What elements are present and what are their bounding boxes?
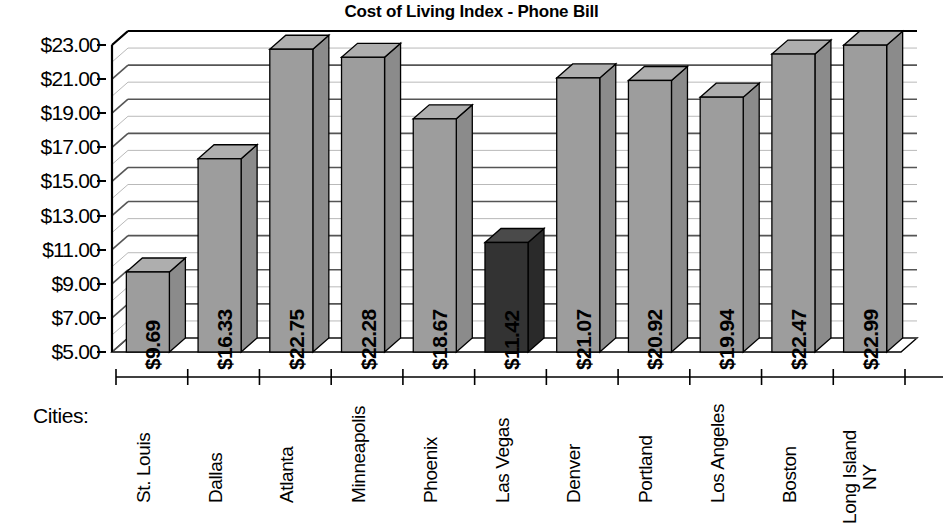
wall-edge-tick: [112, 167, 128, 181]
bar-value-label: $20.92: [643, 309, 667, 370]
y-axis-top-connector: [112, 31, 128, 45]
x-axis-category-label: Portland: [636, 435, 655, 503]
wall-edge-tick: [112, 202, 128, 216]
wall-edge-tick: [112, 321, 128, 335]
bar-value-label: $9.69: [141, 320, 165, 370]
bar-side-face: [743, 83, 759, 352]
bar-value-label: $11.42: [500, 311, 524, 370]
bar-side-face: [815, 40, 831, 352]
bar-side-face: [456, 105, 472, 352]
bar-side-face: [887, 31, 903, 352]
x-axis-category-label: Phoenix: [421, 437, 440, 503]
x-axis-category-label: Minneapolis: [349, 406, 368, 503]
bar-side-face: [241, 145, 257, 352]
bar-front-face[interactable]: [270, 49, 313, 352]
x-axis-category-label: Long IslandNY: [840, 430, 880, 524]
wall-edge-tick: [112, 185, 128, 199]
x-axis-category-label: Dallas: [206, 453, 225, 503]
bar-side-face: [313, 35, 329, 352]
x-axis-caption: Cities:: [33, 404, 89, 428]
bar-value-label: $22.28: [357, 309, 381, 370]
x-axis-category-label: Boston: [780, 446, 799, 503]
x-axis-category-label: St. Louis: [134, 433, 153, 503]
x-axis-category-label: Los Angeles: [708, 404, 727, 503]
wall-edge-tick: [112, 287, 128, 301]
bar-group[interactable]: [772, 40, 831, 352]
bar-side-face: [385, 43, 401, 352]
bar-value-label: $22.75: [285, 309, 309, 370]
x-axis-category-label: Las Vegas: [493, 418, 512, 503]
bar-value-label: $21.07: [572, 309, 596, 370]
bar-side-face: [671, 66, 687, 352]
x-axis-category-label: Atlanta: [277, 447, 296, 503]
bar-value-label: $19.94: [715, 309, 739, 370]
bar-side-face: [169, 258, 185, 352]
wall-edge-tick: [112, 304, 128, 318]
bar-value-label: $16.33: [213, 309, 237, 370]
wall-edge-tick: [112, 133, 128, 147]
bar-value-label: $22.47: [787, 309, 811, 370]
bar-front-face[interactable]: [342, 57, 385, 352]
wall-edge-tick: [112, 99, 128, 113]
wall-edge-tick: [112, 253, 128, 267]
bar-front-face[interactable]: [772, 54, 815, 352]
bar-side-face: [600, 64, 616, 352]
wall-edge-tick: [112, 116, 128, 130]
bar-side-face: [528, 229, 544, 352]
x-axis-category-label: Denver: [564, 444, 583, 503]
wall-edge-tick: [112, 82, 128, 96]
bar-group[interactable]: [844, 31, 903, 352]
bar-front-face[interactable]: [844, 45, 887, 352]
wall-edge-tick: [112, 150, 128, 164]
bar-value-label: $22.99: [859, 309, 883, 370]
bars: [126, 31, 902, 352]
wall-edge-tick: [112, 48, 128, 62]
wall-edge-tick: [112, 236, 128, 250]
wall-edge-tick: [112, 65, 128, 79]
wall-edge-tick: [112, 219, 128, 233]
bar-group[interactable]: [270, 35, 329, 352]
bar-value-label: $18.67: [428, 309, 452, 370]
bar-group[interactable]: [342, 43, 401, 352]
